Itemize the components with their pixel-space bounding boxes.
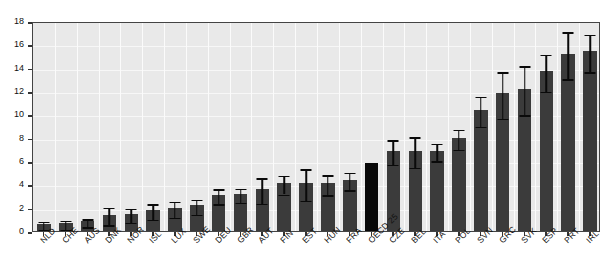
bar-group-dnk[interactable] (103, 23, 117, 231)
error-bar-cap-upper (388, 140, 399, 142)
bar-group-cze[interactable] (387, 23, 401, 231)
y-tick-label-18: 18 (4, 16, 24, 26)
error-bar-cap-upper (60, 221, 71, 223)
error-bar-cap-lower (453, 150, 464, 152)
error-bar-line-irl (589, 35, 591, 72)
error-bar-cap-upper (453, 130, 464, 132)
y-tick-label-6: 6 (4, 156, 24, 166)
bar-group-fin[interactable] (277, 23, 291, 231)
error-bar-cap-upper (235, 189, 246, 191)
gridline-x-17 (404, 23, 405, 231)
gridline-x-8 (208, 23, 209, 231)
error-bar-cap-upper (169, 202, 180, 204)
error-bar-cap-upper (432, 144, 443, 146)
bar-group-fra[interactable] (343, 23, 357, 231)
bar-group-aut[interactable] (256, 23, 270, 231)
error-bar-cap-lower (322, 195, 333, 197)
error-bar-cap-lower (344, 190, 355, 192)
bar-esp[interactable] (540, 71, 554, 231)
error-bar-line-aut (262, 178, 264, 204)
gridline-x-24 (557, 23, 558, 231)
bar-group-ita[interactable] (430, 23, 444, 231)
y-tick-label-14: 14 (4, 63, 24, 73)
bar-group-esp[interactable] (540, 23, 554, 231)
error-bar-cap-upper (585, 35, 596, 37)
error-bar-cap-upper (213, 189, 224, 191)
error-bar-line-esp (546, 55, 548, 92)
error-bar-cap-upper (410, 137, 421, 139)
bar-group-nor[interactable] (125, 23, 139, 231)
error-bar-cap-lower (519, 115, 530, 117)
error-bar-cap-lower (475, 127, 486, 129)
gridline-x-10 (251, 23, 252, 231)
error-bar-cap-lower (126, 223, 137, 225)
gridline-x-18 (426, 23, 427, 231)
bar-group-svn[interactable] (474, 23, 488, 231)
error-bar-line-est (305, 169, 307, 201)
bar-group-swe[interactable] (190, 23, 204, 231)
bar-pol[interactable] (452, 138, 466, 231)
error-bar-line-dnk (109, 208, 111, 226)
error-bar-line-ita (436, 144, 438, 162)
error-bar-cap-lower (279, 195, 290, 197)
gridline-x-4 (120, 23, 121, 231)
gridline-x-5 (142, 23, 143, 231)
bar-group-hun[interactable] (321, 23, 335, 231)
error-bar-cap-lower (191, 215, 202, 217)
error-bar-line-swe (196, 200, 198, 215)
error-bar-line-lux (174, 202, 176, 218)
y-tick-label-16: 16 (4, 39, 24, 49)
y-tick-label-10: 10 (4, 109, 24, 119)
bar-group-lux[interactable] (168, 23, 182, 231)
bar-group-pol[interactable] (452, 23, 466, 231)
gridline-x-14 (339, 23, 340, 231)
bar-group-svk[interactable] (518, 23, 532, 231)
error-bar-line-bel (415, 137, 417, 167)
bar-group-deu[interactable] (212, 23, 226, 231)
gridline-x-13 (317, 23, 318, 231)
y-tick-mark-18 (28, 22, 32, 24)
bar-irl[interactable] (583, 51, 597, 231)
bar-oecd-25[interactable] (365, 163, 379, 231)
error-bar-cap-lower (169, 218, 180, 220)
y-tick-label-12: 12 (4, 86, 24, 96)
bar-group-aus[interactable] (81, 23, 95, 231)
y-tick-label-4: 4 (4, 179, 24, 189)
bar-chart: 024681012141618 NLDCHEAUSDNKNORISLLUXSWE… (0, 0, 607, 280)
gridline-x-25 (579, 23, 580, 231)
error-bar-line-gbr (240, 189, 242, 203)
bar-group-oecd-25[interactable] (365, 23, 379, 231)
bar-group-bel[interactable] (409, 23, 423, 231)
error-bar-cap-upper (148, 204, 159, 206)
gridline-x-12 (295, 23, 296, 231)
error-bar-cap-lower (148, 220, 159, 222)
error-bar-cap-upper (279, 176, 290, 178)
error-bar-cap-lower (585, 72, 596, 74)
error-bar-line-fra (349, 173, 351, 191)
error-bar-line-pol (458, 130, 460, 150)
y-tick-mark-12 (28, 92, 32, 94)
y-tick-mark-0 (28, 232, 32, 234)
bar-group-prt[interactable] (561, 23, 575, 231)
error-bar-cap-upper (126, 209, 137, 211)
error-bar-cap-upper (322, 175, 333, 177)
error-bar-line-fin (283, 176, 285, 195)
bar-group-est[interactable] (299, 23, 313, 231)
error-bar-cap-upper (519, 66, 530, 68)
bar-group-irl[interactable] (583, 23, 597, 231)
error-bar-cap-upper (104, 208, 115, 210)
bar-group-che[interactable] (59, 23, 73, 231)
error-bar-cap-lower (301, 201, 312, 203)
bar-group-nld[interactable] (37, 23, 51, 231)
error-bar-cap-upper (497, 72, 508, 74)
error-bar-cap-upper (344, 173, 355, 175)
error-bar-line-hun (327, 175, 329, 195)
error-bar-line-deu (218, 189, 220, 204)
error-bar-cap-lower (257, 204, 268, 206)
gridline-x-7 (186, 23, 187, 231)
error-bar-cap-upper (82, 219, 93, 221)
error-bar-line-cze (393, 140, 395, 165)
bar-group-gbr[interactable] (234, 23, 248, 231)
bar-group-isl[interactable] (146, 23, 160, 231)
bar-group-grc[interactable] (496, 23, 510, 231)
